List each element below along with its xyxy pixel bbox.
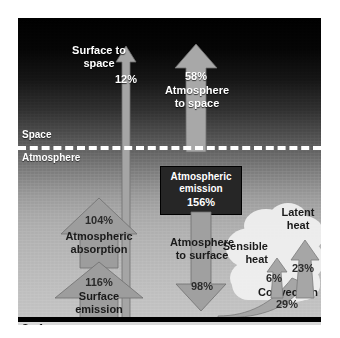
value-atmosphere-to-space: 58%	[170, 70, 222, 82]
value-latent-heat: 23%	[282, 262, 321, 274]
value-atmospheric-absorption: 104%	[73, 214, 125, 226]
label-surface-to-space: Surface to space	[60, 44, 138, 70]
label-atmosphere-to-space: Atmosphere to space	[158, 84, 236, 110]
value-surface-emission: 116%	[73, 276, 125, 288]
label-sensible-heat: Sensible heat	[208, 240, 268, 266]
atmospheric-emission-box: Atmospheric emission 156%	[160, 166, 242, 215]
label-surface-emission: Surface emission	[62, 290, 136, 316]
zone-label-surface: Surface	[22, 323, 59, 325]
value-surface-to-space: 12%	[106, 73, 146, 85]
value-convection: 29%	[258, 298, 316, 310]
zone-label-space: Space	[22, 129, 51, 140]
zone-label-atmosphere: Atmosphere	[22, 152, 80, 163]
value-atmospheric-emission: 156%	[167, 196, 235, 209]
label-atmospheric-absorption: Atmospheric absorption	[56, 230, 142, 256]
label-latent-heat: Latent heat	[272, 206, 321, 232]
label-atmospheric-emission: Atmospheric emission	[167, 171, 235, 195]
energy-budget-figure: Surface to space 12% 58% Atmosphere to s…	[18, 18, 321, 325]
surface-line	[18, 317, 321, 322]
space-atmosphere-boundary	[18, 146, 321, 150]
